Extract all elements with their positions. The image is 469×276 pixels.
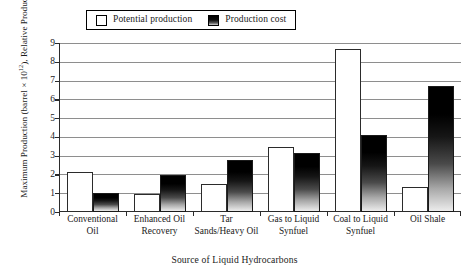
y-axis-title-line2: Relative Production Cost [19, 0, 29, 57]
x-axis-title: Source of Liquid Hydrocarbons [0, 254, 469, 265]
bar-potential-production [134, 194, 160, 212]
chart-axes: 0123456789 [59, 43, 461, 212]
bar-potential-production [402, 187, 428, 212]
bar-group [59, 43, 126, 212]
bar-group [193, 43, 260, 212]
bar-group [327, 43, 394, 212]
bar-group [126, 43, 193, 212]
bar-production-cost [160, 175, 186, 212]
y-axis-tick-label: 3 [39, 149, 55, 161]
x-axis-category-label-line: Synfuel [319, 226, 402, 238]
bar-production-cost [294, 153, 320, 212]
bar-production-cost [361, 135, 387, 212]
legend-swatch-potential-production [96, 15, 107, 26]
x-axis-category-label: Oil Shale [386, 214, 469, 226]
legend-label-production-cost: Production cost [225, 15, 286, 25]
plot-area: Maximum Production (barrel × 1012), Rela… [0, 36, 469, 226]
legend-entry-potential-production: Potential production [96, 15, 192, 26]
bar-production-cost [428, 86, 454, 212]
bar-series-container [59, 43, 461, 212]
bar-production-cost [227, 160, 253, 212]
chart-figure: Potential production Production cost Max… [0, 0, 469, 276]
y-axis-tick-label: 8 [39, 55, 55, 67]
y-axis-tick-label: 9 [39, 37, 55, 49]
y-axis-title-exponent: 12 [17, 65, 24, 71]
y-axis-tick-label: 1 [39, 187, 55, 199]
x-axis-category-labels: ConventionalOilEnhanced OilRecoveryTarSa… [59, 214, 461, 248]
bar-potential-production [268, 147, 294, 212]
y-axis-tick-label: 5 [39, 112, 55, 124]
y-axis-tick-label: 6 [39, 93, 55, 105]
y-axis-tick-label: 4 [39, 130, 55, 142]
y-axis-tick-label: 7 [39, 74, 55, 86]
bar-potential-production [335, 49, 361, 212]
chart-legend: Potential production Production cost [86, 10, 296, 30]
legend-entry-production-cost: Production cost [208, 15, 286, 26]
y-axis-tick-label: 2 [39, 168, 55, 180]
x-axis-category-label-line: Oil Shale [386, 214, 469, 226]
bar-potential-production [201, 184, 227, 212]
bar-production-cost [93, 193, 119, 212]
y-axis-title: Maximum Production (barrel × 1012), Rela… [15, 18, 31, 198]
legend-label-potential-production: Potential production [113, 15, 192, 25]
bar-group [394, 43, 461, 212]
bar-potential-production [67, 172, 93, 212]
y-axis-title-line1: Maximum Production (barrel × 1012), [19, 59, 29, 197]
bar-group [260, 43, 327, 212]
legend-swatch-production-cost [208, 15, 219, 26]
